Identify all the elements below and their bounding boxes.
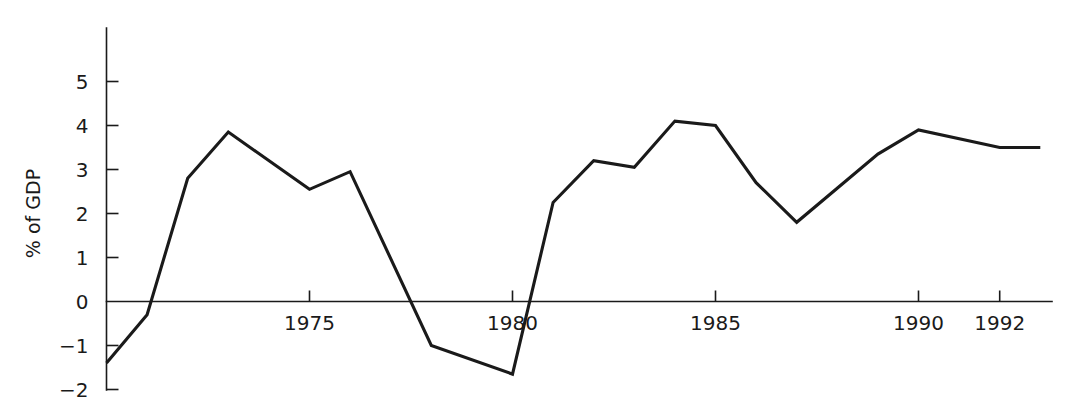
data-series-line (107, 121, 1041, 374)
chart-figure: 543210−1−2 19751980198519901992 % of GDP (0, 0, 1080, 419)
y-tick-label: 3 (76, 158, 89, 182)
x-tick-label: 1980 (487, 311, 538, 335)
y-axis: 543210−1−2 (59, 28, 118, 402)
y-tick-label: 4 (76, 114, 89, 138)
y-tick-label: −1 (59, 334, 88, 358)
x-tick-label: 1975 (284, 311, 335, 335)
y-tick-label: 0 (76, 290, 89, 314)
y-tick-label: −2 (59, 378, 88, 402)
x-axis: 19751980198519901992 (107, 291, 1053, 335)
y-tick-label: 1 (76, 246, 89, 270)
y-tick-label: 2 (76, 202, 89, 226)
y-axis-label-text: % of GDP (22, 169, 44, 258)
chart-plot-area: 543210−1−2 19751980198519901992 % of GDP (0, 0, 1080, 419)
x-tick-label: 1992 (974, 311, 1025, 335)
x-tick-label: 1985 (690, 311, 741, 335)
y-tick-label: 5 (76, 70, 89, 94)
series-polyline (107, 121, 1041, 374)
y-axis-title: % of GDP (22, 169, 44, 258)
x-tick-label: 1990 (893, 311, 944, 335)
